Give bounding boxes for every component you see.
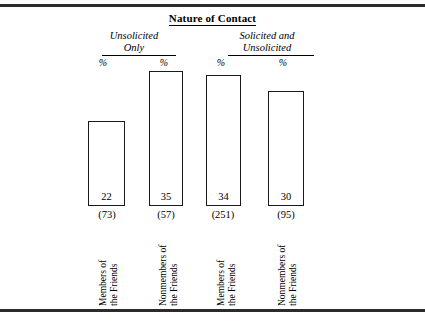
bar-value-label: 34 <box>207 191 240 202</box>
category-label-line1: Members of <box>98 232 109 306</box>
category-label-line2: the Friends <box>288 232 299 306</box>
bar: 35 <box>149 71 183 206</box>
bar-n-label: (251) <box>197 209 249 220</box>
bar-value-label: 22 <box>89 191 124 202</box>
bar: 22 <box>88 121 125 206</box>
percent-marker: % <box>92 57 114 68</box>
category-label-line1: Members of <box>216 232 227 306</box>
figure-container: Nature of Contact Unsolicited Only Solic… <box>0 0 425 324</box>
category-label: Nonmembers of the Friends <box>158 232 174 306</box>
bar-n-label: (95) <box>260 209 312 220</box>
category-label: Members of the Friends <box>216 232 232 306</box>
bar-n-label: (57) <box>140 209 192 220</box>
category-label-line1: Nonmembers of <box>277 232 288 306</box>
category-label-line2: the Friends <box>227 232 238 306</box>
bar-value-label: 35 <box>150 191 182 202</box>
plot-area: % % % % 22 35 34 30 (73) (57) (251) (95)… <box>0 0 425 324</box>
percent-marker: % <box>153 57 175 68</box>
category-label-line2: the Friends <box>169 232 180 306</box>
category-label: Nonmembers of the Friends <box>277 232 293 306</box>
category-label: Members of the Friends <box>98 232 114 306</box>
bar-n-label: (73) <box>81 209 133 220</box>
category-label-line1: Nonmembers of <box>158 232 169 306</box>
percent-marker: % <box>272 57 294 68</box>
bar: 30 <box>268 91 304 207</box>
percent-marker: % <box>210 57 232 68</box>
bar: 34 <box>206 75 241 206</box>
category-label-line2: the Friends <box>109 232 120 306</box>
bar-value-label: 30 <box>269 191 303 202</box>
